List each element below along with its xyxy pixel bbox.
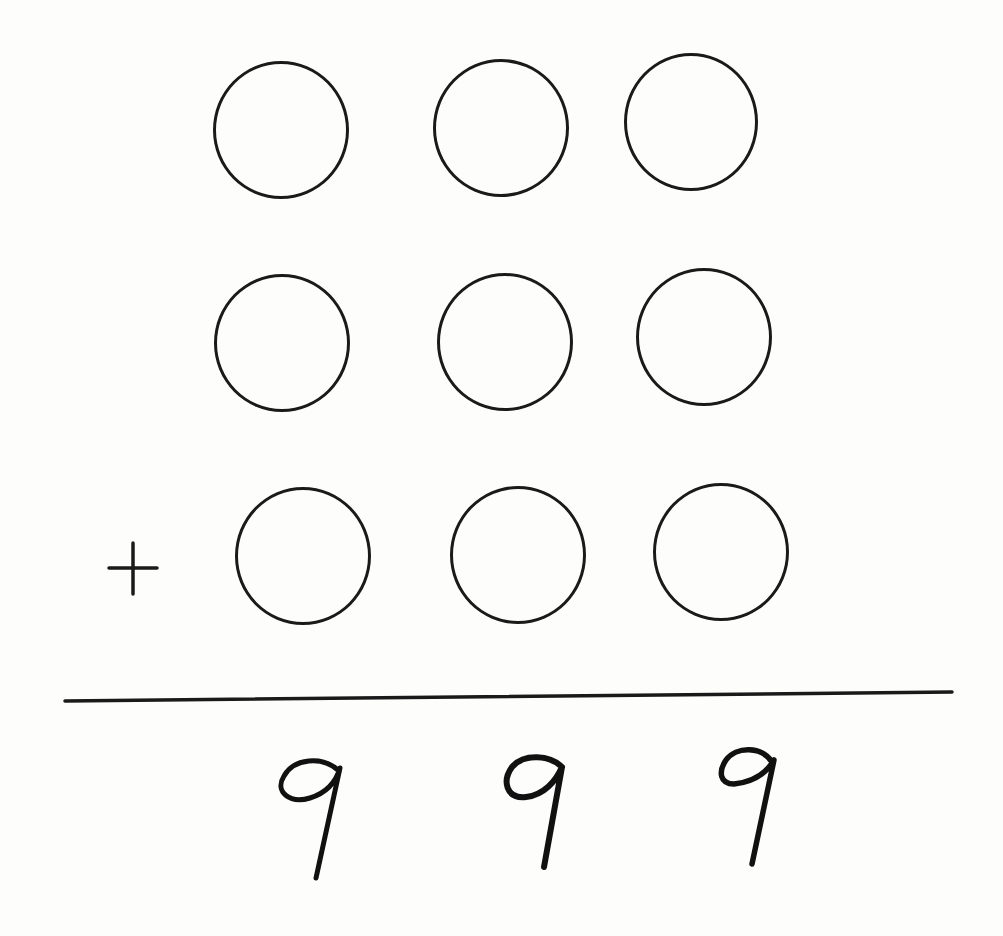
- result-digit-1: 9: [272, 748, 362, 888]
- result-digit-3: 9: [698, 740, 788, 880]
- addition-puzzle: + 9 9 9: [0, 0, 1003, 936]
- result-digit-2: 9: [490, 745, 580, 885]
